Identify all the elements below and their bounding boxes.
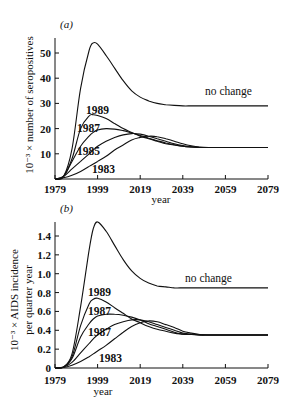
y-tick-label: 1.4 [37, 230, 51, 242]
y-tick-label: 0.6 [37, 305, 51, 317]
y-tick-label: 1.2 [37, 249, 51, 261]
y-axis-label-b-line2: per quarter year [22, 265, 34, 335]
axes-a: 1979199920192039205920791020304050 [40, 38, 280, 195]
panel-label-a: (a) [60, 18, 73, 31]
y-tick-label: 0.4 [37, 324, 51, 336]
x-tick-label: 2039 [172, 374, 195, 386]
y-tick-label: 30 [40, 97, 52, 109]
x-tick-label: 2059 [214, 374, 237, 386]
x-tick-label: 2059 [214, 183, 237, 195]
x-tick-label: 2019 [129, 374, 152, 386]
curve-label-1983-b: 1983 [99, 352, 122, 364]
figure: (a) 1979199920192039205920791020304050 n… [0, 0, 295, 405]
curve-label-1989-a: 1989 [86, 104, 109, 116]
y-tick-label: 50 [40, 47, 52, 59]
y-tick-label: 40 [40, 72, 52, 84]
x-tick-label: 2079 [257, 374, 280, 386]
x-tick-label: 2039 [172, 183, 195, 195]
y-tick-label: 0.2 [37, 343, 51, 355]
curve-label-no-change-a: no change [205, 85, 252, 98]
chart-panel-a: (a) 1979199920192039205920791020304050 n… [23, 18, 280, 205]
y-axis-label-b-line1: 10⁻³ × AIDS incidence [8, 249, 20, 351]
y-tick-label: 20 [40, 123, 52, 135]
curve-label-1983-a: 1983 [92, 163, 115, 175]
x-tick-label: 1979 [44, 374, 67, 386]
curve-label-1987-b: 1987 [88, 305, 111, 317]
y-axis-label-a: 10⁻³ × number of seropositives [23, 36, 35, 174]
x-tick-label: 2079 [257, 183, 280, 195]
x-tick-label: 2019 [129, 183, 152, 195]
curve-label-1985-a: 1985 [77, 145, 100, 157]
y-tick-label: 0 [46, 362, 52, 374]
chart-panel-b: (b) 19791999201920392059207900.20.40.60.… [8, 202, 280, 397]
y-tick-label: 1.0 [37, 268, 51, 280]
y-tick-label: 10 [40, 148, 52, 160]
x-axis-label-a: year [152, 193, 171, 205]
series-line-1987 [55, 314, 268, 368]
x-tick-label: 1999 [87, 183, 110, 195]
y-tick-label: 0.8 [37, 287, 51, 299]
curve-label-1989-b: 1989 [88, 286, 111, 298]
panel-label-b: (b) [60, 202, 73, 215]
curve-label-no-change-b: no change [185, 272, 232, 285]
x-axis-label-b: year [94, 385, 113, 397]
curve-label-1987-a: 1987 [77, 122, 100, 134]
curves-b [55, 222, 268, 369]
curve-label-1987-second-b: 1987 [88, 326, 111, 338]
x-tick-label: 1979 [44, 183, 67, 195]
